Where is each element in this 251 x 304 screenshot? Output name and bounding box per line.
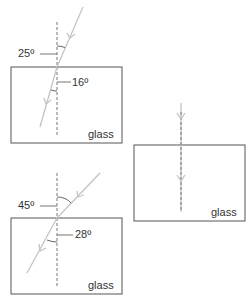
refraction-angle-label: 16º <box>72 77 88 88</box>
incident-ray <box>57 173 100 218</box>
refraction-angle-label: 28º <box>75 229 91 240</box>
refraction-angle-arc <box>51 90 57 91</box>
incidence-angle-arc <box>57 46 65 48</box>
incidence-angle-arc <box>57 197 71 203</box>
material-label: glass <box>88 280 114 291</box>
diagram-top-left <box>11 7 122 143</box>
material-label: glass <box>211 207 237 218</box>
diagram-right <box>134 103 245 221</box>
diagram-bottom-left <box>11 173 122 294</box>
refracted-ray <box>40 67 57 127</box>
refraction-diagrams <box>0 0 251 304</box>
refracted-ray <box>27 218 57 273</box>
refraction-angle-arc <box>47 240 57 242</box>
material-label: glass <box>88 129 114 140</box>
incidence-angle-label: 25º <box>18 48 34 59</box>
incidence-angle-label: 45º <box>18 200 34 211</box>
